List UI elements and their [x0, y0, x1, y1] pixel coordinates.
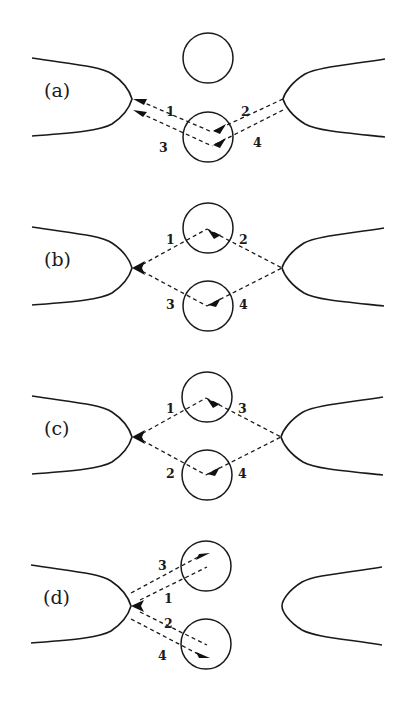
- arrow-head-icon: [132, 268, 145, 275]
- path-1: [140, 101, 212, 132]
- path-number: 4: [253, 135, 262, 150]
- arrow-head-icon: [213, 138, 226, 148]
- panel-label: (c): [44, 417, 69, 439]
- scatterer-bottom: [183, 112, 233, 162]
- panel-b: (b) 1 2 3 4: [32, 203, 384, 331]
- arrow-head-icon: [196, 652, 210, 658]
- arrow-head-icon: [133, 110, 147, 117]
- path-3: [140, 113, 212, 146]
- arrow-head-icon: [133, 99, 147, 105]
- path-number: 2: [164, 616, 173, 631]
- arrow-head-icon: [131, 606, 144, 612]
- arrow-head-icon: [132, 261, 145, 268]
- path-1: [140, 567, 207, 600]
- right-contact: [283, 59, 385, 137]
- scattering-diagram: (a) 1 2 3 4 (b) 1 2 3 4: [0, 0, 402, 705]
- path-number: 2: [241, 104, 250, 119]
- path-number: 2: [166, 466, 175, 481]
- path-number: 1: [166, 104, 175, 119]
- path-number: 3: [158, 558, 167, 573]
- panel-label: (d): [43, 586, 70, 608]
- arrow-head-icon: [207, 467, 220, 476]
- scatterer-top: [183, 33, 233, 83]
- path-number: 3: [238, 401, 247, 416]
- arrow-head-icon: [208, 230, 221, 239]
- path-number: 3: [166, 297, 175, 312]
- right-contact: [282, 228, 384, 306]
- arrow-head-icon: [208, 298, 221, 307]
- path-number: 3: [159, 140, 168, 155]
- right-contact: [282, 567, 382, 645]
- right-contact: [281, 397, 383, 475]
- path-number: 4: [239, 297, 248, 312]
- scatterer-top: [181, 541, 231, 591]
- path-number: 4: [238, 466, 247, 481]
- path-number: 1: [166, 232, 175, 247]
- panel-c: (c) 1 3 2 4: [32, 372, 383, 500]
- path-number: 1: [164, 591, 173, 606]
- panel-label: (b): [44, 248, 71, 270]
- scatterer-top: [183, 203, 233, 253]
- scatterer-top: [182, 372, 232, 422]
- arrow-head-icon: [196, 553, 210, 560]
- arrow-head-icon: [132, 437, 145, 444]
- panel-label: (a): [44, 79, 70, 101]
- arrow-head-icon: [213, 124, 226, 134]
- arrow-head-icon: [207, 399, 220, 408]
- panel-a: (a) 1 2 3 4: [32, 33, 385, 162]
- path-number: 4: [158, 648, 167, 663]
- path-number: 2: [239, 232, 248, 247]
- path-2: [140, 612, 207, 645]
- arrow-head-icon: [131, 600, 144, 606]
- arrow-head-icon: [132, 430, 145, 437]
- path-number: 1: [166, 401, 175, 416]
- panel-d: (d) 3 1 2 4: [31, 541, 382, 669]
